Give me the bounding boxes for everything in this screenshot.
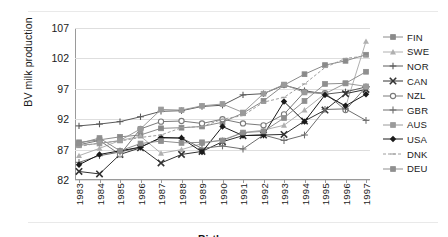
figure-bottom-rule <box>28 222 438 223</box>
legend-item-DEU[interactable]: DEU <box>382 161 444 176</box>
legend-item-FIN[interactable]: FIN <box>382 30 444 45</box>
x-tickmark-1990 <box>223 180 224 183</box>
x-tick-1997: 1997 <box>361 183 372 205</box>
y-tick-107: 107 <box>51 22 69 34</box>
legend-item-DNK[interactable]: DNK <box>382 147 444 162</box>
legend-item-CAN[interactable]: CAN <box>382 74 444 89</box>
x-tick-1994: 1994 <box>300 183 311 205</box>
plot-area: 82879297102107 1983198419851986198719881… <box>75 28 370 180</box>
chart-legend: FINSWENORCANNZLGBRAUSUSADNKDEU <box>382 30 444 176</box>
series-lines <box>75 28 370 180</box>
legend-marker-AUS-icon <box>382 119 404 131</box>
x-axis-title: Birth year <box>75 233 370 237</box>
x-tick-1985: 1985 <box>115 183 126 205</box>
legend-marker-SWE-icon <box>382 46 404 58</box>
x-tick-1986: 1986 <box>136 183 147 205</box>
x-tickmark-1983 <box>79 180 80 183</box>
x-tickmark-1986 <box>141 180 142 183</box>
legend-marker-DNK-icon <box>382 148 404 160</box>
x-tickmark-1996 <box>346 180 347 183</box>
x-tickmark-1988 <box>182 180 183 183</box>
legend-marker-GBR-icon <box>382 104 404 116</box>
x-tick-1984: 1984 <box>95 183 106 205</box>
legend-item-AUS[interactable]: AUS <box>382 118 444 133</box>
legend-marker-NOR-icon <box>382 60 404 72</box>
legend-label-DNK: DNK <box>404 149 428 160</box>
x-tickmark-1991 <box>243 180 244 183</box>
legend-item-NZL[interactable]: NZL <box>382 88 444 103</box>
legend-label-DEU: DEU <box>404 163 428 174</box>
x-tick-1983: 1983 <box>74 183 85 205</box>
legend-label-USA: USA <box>404 134 427 145</box>
x-tick-1987: 1987 <box>156 183 167 205</box>
x-tickmark-1997 <box>366 180 367 183</box>
legend-marker-DEU-icon <box>382 163 404 175</box>
legend-label-FIN: FIN <box>404 32 423 43</box>
legend-item-SWE[interactable]: SWE <box>382 45 444 60</box>
x-tick-1993: 1993 <box>279 183 290 205</box>
y-tick-82: 82 <box>57 174 69 186</box>
x-tickmark-1985 <box>120 180 121 183</box>
x-tick-1996: 1996 <box>341 183 352 205</box>
x-tickmark-1994 <box>305 180 306 183</box>
x-tickmark-1989 <box>202 180 203 183</box>
x-tickmark-1992 <box>264 180 265 183</box>
x-tick-1991: 1991 <box>238 183 249 205</box>
x-tick-1989: 1989 <box>197 183 208 205</box>
legend-marker-FIN-icon <box>382 31 404 43</box>
x-tickmark-1993 <box>284 180 285 183</box>
legend-label-NOR: NOR <box>404 61 429 72</box>
legend-label-CAN: CAN <box>404 76 428 87</box>
x-tickmark-1984 <box>100 180 101 183</box>
x-tickmark-1995 <box>325 180 326 183</box>
legend-item-GBR[interactable]: GBR <box>382 103 444 118</box>
legend-marker-CAN-icon <box>382 75 404 87</box>
series-FIN <box>77 52 369 144</box>
figure-top-rule <box>28 11 438 12</box>
x-tick-1990: 1990 <box>218 183 229 205</box>
x-tick-1992: 1992 <box>259 183 270 205</box>
legend-item-USA[interactable]: USA <box>382 132 444 147</box>
legend-label-AUS: AUS <box>404 119 427 130</box>
legend-label-SWE: SWE <box>404 46 429 57</box>
plot-area-wrapper: 82879297102107 1983198419851986198719881… <box>40 28 370 180</box>
y-tick-97: 97 <box>57 83 69 95</box>
series-CAN <box>76 86 369 177</box>
legend-label-NZL: NZL <box>404 90 426 101</box>
y-tick-87: 87 <box>57 144 69 156</box>
legend-label-GBR: GBR <box>404 105 428 116</box>
x-tickmark-1987 <box>161 180 162 183</box>
legend-item-NOR[interactable]: NOR <box>382 59 444 74</box>
x-tick-1995: 1995 <box>320 183 331 205</box>
y-tick-92: 92 <box>57 113 69 125</box>
x-tick-1988: 1988 <box>177 183 188 205</box>
y-axis-title: BV milk production <box>22 0 34 137</box>
legend-marker-USA-icon <box>382 133 404 145</box>
y-tick-102: 102 <box>51 52 69 64</box>
legend-marker-NZL-icon <box>382 90 404 102</box>
chart-figure: BV milk production 82879297102107 198319… <box>0 0 448 237</box>
